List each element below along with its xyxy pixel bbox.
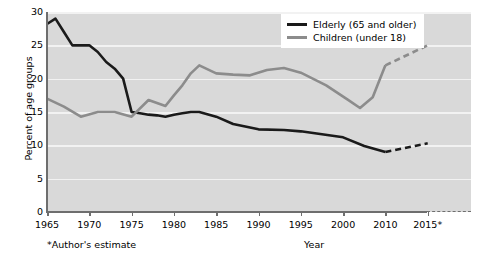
x-axis-tick-mark	[174, 211, 176, 216]
series-line-children-projected	[385, 45, 427, 65]
legend-label: Children (under 18)	[313, 32, 406, 43]
x-axis-tick-label: 2015*	[413, 219, 442, 230]
x-axis-tick-mark	[132, 211, 134, 216]
x-axis-tick-label: 1965	[35, 219, 59, 230]
y-axis-tick-labels: 051015202530	[0, 12, 43, 212]
y-axis-tick-label: 10	[15, 139, 43, 150]
x-axis-tick-mark	[301, 211, 303, 216]
x-axis-tick-label: 1975	[120, 219, 144, 230]
x-axis-tick-label: 1990	[246, 219, 270, 230]
x-axis-tick-label: 1985	[204, 219, 228, 230]
footnote-author-estimate: *Author's estimate	[47, 239, 136, 250]
y-axis-tick-label: 25	[15, 39, 43, 50]
legend-label: Elderly (65 and older)	[313, 19, 416, 30]
chart-container: Percent of age groups 051015202530 19651…	[0, 0, 489, 262]
y-axis-tick-label: 5	[15, 173, 43, 184]
x-axis-tick-label: 1970	[77, 219, 101, 230]
x-axis-tick-mark	[47, 211, 49, 216]
y-axis-tick-label: 15	[15, 106, 43, 117]
y-axis-tick-label: 30	[15, 6, 43, 17]
legend-color-swatch	[287, 23, 307, 27]
legend-color-swatch	[287, 36, 307, 40]
x-axis-line-projected	[427, 211, 471, 212]
legend-item: Elderly (65 and older)	[287, 18, 416, 31]
x-axis-line	[46, 211, 427, 213]
y-axis-tick-label: 20	[15, 73, 43, 84]
chart-legend: Elderly (65 and older)Children (under 18…	[281, 14, 424, 48]
x-axis-tick-mark	[343, 211, 345, 216]
x-axis-tick-mark	[385, 211, 387, 216]
series-line-elderly-projected	[385, 143, 427, 152]
x-axis-tick-mark	[89, 211, 91, 216]
x-axis-tick-label: 1995	[289, 219, 313, 230]
x-axis-tick-mark	[428, 211, 430, 216]
x-axis-tick-label: 1980	[162, 219, 186, 230]
legend-item: Children (under 18)	[287, 31, 416, 44]
x-axis-tick-label: 2010	[373, 219, 397, 230]
x-axis-tick-label: 2000	[331, 219, 355, 230]
y-axis-tick-label: 0	[15, 206, 43, 217]
x-axis-tick-mark	[259, 211, 261, 216]
x-axis-tick-mark	[216, 211, 218, 216]
y-axis-line	[46, 12, 48, 212]
series-line-children	[47, 65, 385, 116]
x-axis-title: Year	[304, 239, 324, 250]
